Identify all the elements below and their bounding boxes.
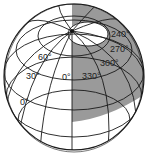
label-lon-330: 330° (82, 71, 101, 81)
label-lat-60: 60° (38, 52, 52, 62)
label-lon-300: 300° (100, 58, 119, 68)
pole-point (70, 29, 74, 33)
label-lon-270: 270° (110, 44, 129, 54)
label-lon-0: 0° (62, 72, 71, 82)
sphere-graphic: 0° 30° 60° 0° 330° 300° 270° 240° (0, 0, 148, 154)
label-lat-0: 0° (20, 97, 29, 107)
label-lon-240: 240° (111, 29, 130, 39)
sphere-diagram: 0° 30° 60° 0° 330° 300° 270° 240° (0, 0, 148, 154)
label-lat-30: 30° (26, 71, 40, 81)
